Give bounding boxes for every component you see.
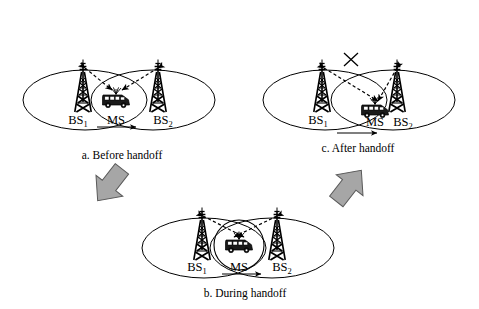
tower-bs1-c (314, 60, 330, 113)
label-ms-c: MS (366, 115, 384, 129)
label-bs1-c: BS1 (308, 113, 328, 129)
label-ms-a: MS (107, 113, 125, 127)
mobile-station-b (226, 232, 253, 252)
tower-bs2-c (389, 60, 405, 113)
label-bs1-a: BS1 (68, 113, 88, 129)
label-bs2-a: BS2 (153, 113, 173, 129)
mobile-station-a (103, 87, 130, 107)
panel-b: BS1 MS BS2 b. During handoff (142, 208, 334, 301)
tower-bs1-b (194, 208, 210, 261)
panel-c: BS1 MS BS2 c. After handoff (263, 53, 455, 154)
x-cross-icon (344, 53, 358, 66)
flow-arrow-a-to-b (84, 159, 135, 211)
link-ms-to-bs2 (122, 68, 158, 90)
caption-panel-a: a. Before handoff (82, 149, 163, 161)
label-bs2-b: BS2 (272, 260, 292, 276)
handoff-diagram: BS1 MS BS2 a. Before handoff BS1 MS BS2 … (0, 0, 479, 309)
tower-bs1 (75, 60, 91, 113)
tower-bs2-b (269, 208, 285, 261)
label-ms-b: MS (230, 260, 248, 274)
figure-canvas: BS1 MS BS2 a. Before handoff BS1 MS BS2 … (0, 0, 479, 309)
tower-bs2 (150, 60, 166, 113)
caption-panel-b: b. During handoff (204, 287, 287, 300)
caption-panel-c: c. After handoff (322, 142, 395, 154)
flow-arrow-b-to-c (323, 160, 374, 212)
panel-a: BS1 MS BS2 a. Before handoff (23, 60, 215, 162)
label-bs2-c: BS2 (393, 115, 413, 131)
label-bs1-b: BS1 (187, 260, 207, 276)
